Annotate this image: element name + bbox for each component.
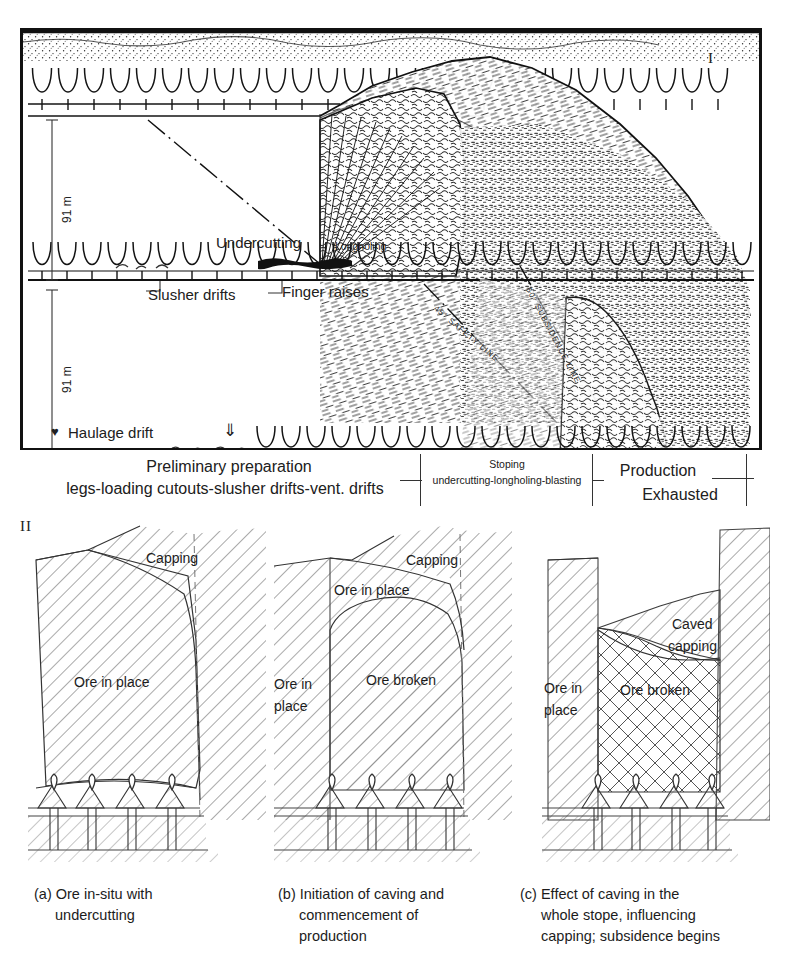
stage-c-diagram: Ore in place Caved capping Ore broken [520,520,764,862]
caption-c-line1: Effect of caving in the [541,886,679,902]
caption-b-line3: production [278,926,513,947]
caption-a: (a) Ore in-situ with undercutting [34,884,264,926]
stage-c-label-ore-in-2: place [544,702,577,718]
phase-divider-3 [746,454,747,506]
label-haulage-drift: Haulage drift [68,424,153,441]
double-down-arrow-icon: ⇓ [223,420,237,441]
phase-production-title: Production [598,462,718,480]
caption-c-line2: whole stope, influencing [520,905,780,926]
caption-b: (b) Initiation of caving and commencemen… [278,884,513,947]
label-undercutting: Undercutting [216,234,301,251]
stage-b-label-ore-in-1: Ore in [274,676,312,692]
stage-b-label-ore-in-2: place [274,698,307,714]
caption-b-line2: commencement of [278,905,513,926]
caption-a-line2: undercutting [34,905,264,926]
label-slusher-drifts: Slusher drifts [148,286,236,303]
panel-one-marker: I [708,50,714,67]
panel-one-phase-band: Preliminary preparation legs-loading cut… [20,448,762,510]
stage-a-label-capping: Capping [146,550,198,566]
stage-b-label-capping: Capping [406,552,458,568]
heart-icon: ♥ [51,424,59,439]
caption-c: (c) Effect of caving in the whole stope,… [520,884,780,947]
dimension-upper-91m: 91 m [60,196,74,223]
stage-a-label-ore-in-place: Ore in place [74,674,149,690]
label-longholing: Longholing [335,240,386,252]
panel-two-caving-stages: Capping Ore in place [20,520,772,870]
phase-tick-3 [712,478,754,479]
caption-a-line1: Ore in-situ with [56,886,153,902]
dimension-lower-91m: 91 m [60,366,74,393]
stage-b-label-ore-broken: Ore broken [366,672,436,688]
phase-preliminary-detail: legs-loading cutouts-slusher drifts-vent… [30,480,420,498]
phase-preliminary-title: Preliminary preparation [54,458,404,476]
caption-b-index: (b) [278,886,296,902]
stage-a-diagram: Capping Ore in place [28,520,272,862]
phase-stoping-detail: undercutting-longholing-blasting [422,474,592,486]
caption-a-index: (a) [34,886,52,902]
stage-c-label-ore-broken: Ore broken [620,682,690,698]
stage-b-diagram: Capping Ore in place Ore in place Ore br… [274,520,518,862]
stage-c-label-caved-1: Caved [672,616,712,632]
stage-b-label-ore-in-place-top: Ore in place [334,582,409,598]
stage-c-label-caved-2: capping [668,638,717,654]
caption-c-line3: capping; subsidence begins [520,926,780,947]
caption-c-index: (c) [520,886,537,902]
label-finger-raises: Finger raises [282,283,369,300]
caption-b-line1: Initiation of caving and [300,886,444,902]
mining-block-caving-figure: I 91 m 91 m Undercutting Longholing Slus… [0,0,786,975]
phase-exhausted-title: Exhausted [618,486,742,504]
panel-one-longitudinal-section: I 91 m 91 m Undercutting Longholing Slus… [20,28,762,510]
stage-c-label-ore-in-1: Ore in [544,680,582,696]
phase-stoping-title: Stoping [424,458,590,470]
phase-tick-2 [592,480,604,481]
